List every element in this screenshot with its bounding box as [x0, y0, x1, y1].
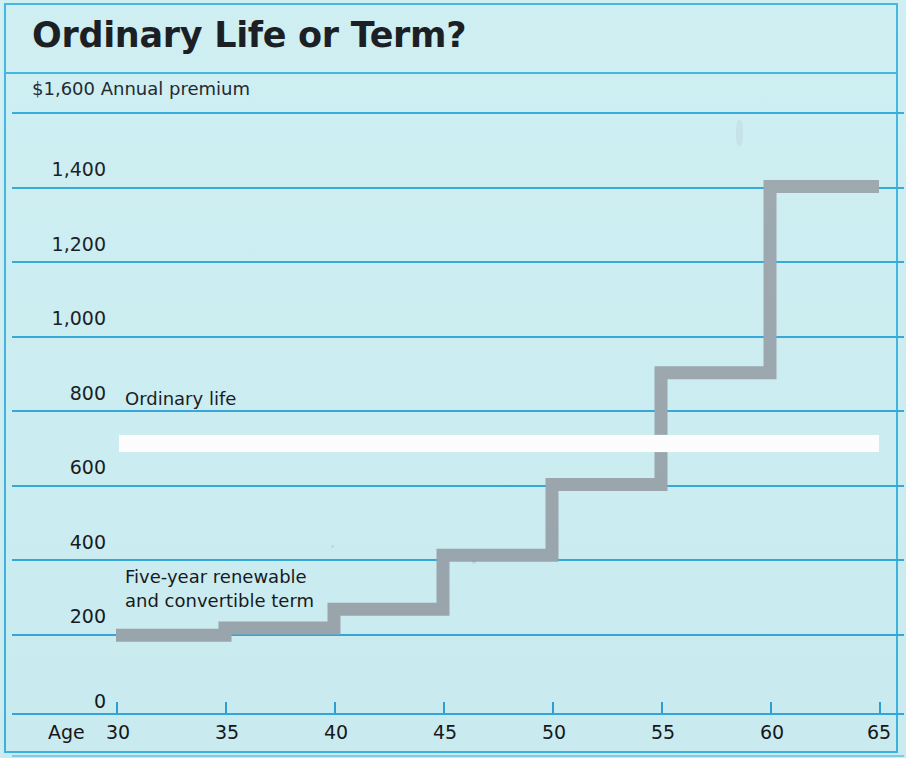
series-ordinary-life-line	[119, 435, 879, 452]
x-axis-lower-rule	[12, 755, 904, 757]
x-tick-55	[661, 702, 663, 713]
annotation-term-line-1: Five-year renewable	[125, 565, 307, 589]
x-tick-label-45: 45	[433, 721, 457, 743]
x-axis-title: Age	[48, 721, 85, 743]
chart-image: Ordinary Life or Term? $1,600 Annual pre…	[0, 0, 906, 758]
page-title: Ordinary Life or Term?	[32, 15, 466, 55]
x-tick-label-30: 30	[106, 721, 130, 743]
x-axis-line	[12, 713, 904, 715]
x-tick-label-50: 50	[542, 721, 566, 743]
x-tick-label-35: 35	[215, 721, 239, 743]
x-tick-45	[443, 702, 445, 713]
x-tick-40	[334, 702, 336, 713]
x-tick-65	[879, 702, 881, 713]
x-tick-30	[116, 702, 118, 713]
x-tick-label-65: 65	[867, 721, 891, 743]
x-tick-60	[770, 702, 772, 713]
plot-area: 1,400 1,200 1,000 800 600 400 200 0 Ordi…	[12, 110, 904, 713]
x-tick-50	[552, 702, 554, 713]
x-tick-label-55: 55	[651, 721, 675, 743]
y-axis-title: $1,600 Annual premium	[32, 78, 250, 99]
annotation-ordinary-life: Ordinary life	[125, 387, 236, 411]
x-tick-35	[225, 702, 227, 713]
x-tick-label-40: 40	[324, 721, 348, 743]
chart-frame: Ordinary Life or Term? $1,600 Annual pre…	[4, 3, 898, 753]
x-tick-label-60: 60	[760, 721, 784, 743]
series-term-staircase	[12, 110, 904, 713]
annotation-term-line-2: and convertible term	[125, 589, 314, 613]
